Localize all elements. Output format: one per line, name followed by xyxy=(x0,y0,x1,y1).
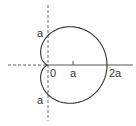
label-x-a: a xyxy=(70,67,77,79)
label-y-top-a: a xyxy=(37,27,44,39)
cardioid-diagram: a 0 a 2a a xyxy=(0,0,136,126)
label-y-bottom-a: a xyxy=(37,94,44,106)
label-origin: 0 xyxy=(50,67,56,79)
label-x-2a: 2a xyxy=(109,67,122,79)
